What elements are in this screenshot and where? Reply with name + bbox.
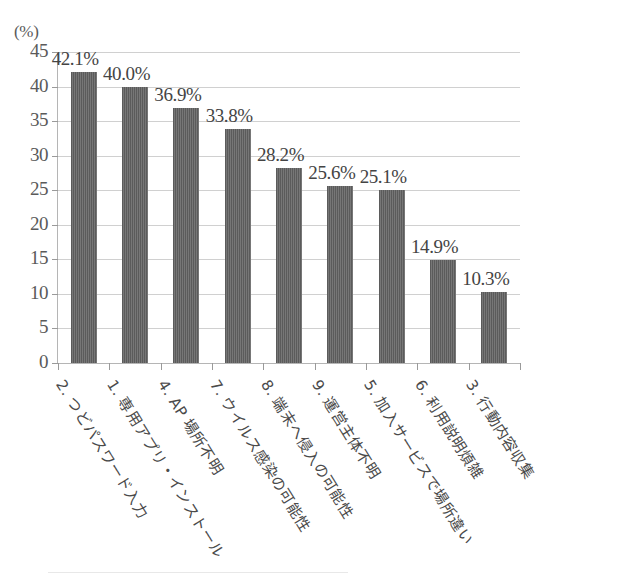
x-axis-tick-mark <box>212 363 213 370</box>
x-axis-tick-mark <box>520 363 521 370</box>
x-axis-tick-mark <box>366 363 367 370</box>
plot-area <box>58 52 520 363</box>
bar <box>173 108 199 363</box>
x-axis-category-label: 8. 端末へ侵入の可能性 <box>257 375 360 522</box>
footer-divider <box>48 572 348 573</box>
y-axis-tick-label: 45 <box>4 40 48 62</box>
bar <box>225 129 251 363</box>
bar-value-label: 25.1% <box>360 166 407 188</box>
x-axis-tick-mark <box>417 363 418 370</box>
bar-chart: (%) 454035302520151050 42.1%40.0%36.9%33… <box>0 0 620 585</box>
bar-value-label: 25.6% <box>308 162 355 184</box>
bar <box>481 292 507 363</box>
gridline <box>58 52 520 53</box>
bar <box>122 87 148 363</box>
x-axis-tick-mark <box>109 363 110 370</box>
x-axis-tick-mark <box>161 363 162 370</box>
bar-value-label: 33.8% <box>206 105 253 127</box>
y-axis-tick-label: 35 <box>4 109 48 131</box>
bar-value-label: 36.9% <box>154 84 201 106</box>
x-axis-category-label: 2. つどパスワード入力 <box>52 375 155 522</box>
x-axis-tick-mark <box>58 363 59 370</box>
bar-value-label: 10.3% <box>462 268 509 290</box>
y-axis-tick-label: 5 <box>4 316 48 338</box>
x-axis-tick-mark <box>315 363 316 370</box>
bar-value-label: 40.0% <box>103 63 150 85</box>
y-axis-tick-label: 15 <box>4 247 48 269</box>
y-axis-tick-label: 25 <box>4 178 48 200</box>
bar <box>276 168 302 363</box>
bar <box>379 190 405 363</box>
y-axis-tick-label: 10 <box>4 282 48 304</box>
x-axis-tick-mark <box>263 363 264 370</box>
y-axis-unit-label: (%) <box>14 22 39 42</box>
y-axis-tick-label: 30 <box>4 144 48 166</box>
bar-value-label: 42.1% <box>52 48 99 70</box>
bar-value-label: 28.2% <box>257 144 304 166</box>
y-axis-tick-label: 0 <box>4 351 48 373</box>
bar-value-label: 14.9% <box>411 236 458 258</box>
bar <box>327 186 353 363</box>
gridline <box>58 363 520 364</box>
bar <box>71 72 97 363</box>
y-axis-tick-label: 20 <box>4 213 48 235</box>
x-axis-tick-mark <box>469 363 470 370</box>
bar <box>430 260 456 363</box>
y-axis-tick-label: 40 <box>4 75 48 97</box>
